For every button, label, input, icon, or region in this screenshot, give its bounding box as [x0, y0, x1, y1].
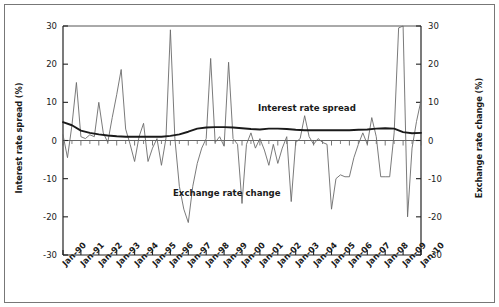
y-tick-label-right: 20	[428, 59, 470, 69]
y-tick-label-left: -20	[15, 212, 57, 222]
y-tick-label-right: 10	[428, 97, 470, 107]
y-tick-label-left: -30	[15, 250, 57, 260]
series-line-interest-rate-spread	[63, 122, 421, 136]
y-tick-label-right: 0	[428, 136, 470, 146]
series-label-exchange-rate-change: Exchange rate change	[173, 188, 281, 198]
y-tick-label-left: 0	[15, 136, 57, 146]
y-tick-label-right: -10	[428, 174, 470, 184]
y-tick-label-left: 20	[15, 59, 57, 69]
chart-figure: Interest rate spread (%) Exchange rate c…	[0, 0, 499, 307]
y-tick-label-left: -10	[15, 174, 57, 184]
y-tick-label-left: 10	[15, 97, 57, 107]
series-label-interest-rate-spread: Interest rate spread	[258, 103, 356, 113]
y-tick-label-left: 30	[15, 21, 57, 31]
y-tick-label-right: 30	[428, 21, 470, 31]
y-tick-label-right: -20	[428, 212, 470, 222]
